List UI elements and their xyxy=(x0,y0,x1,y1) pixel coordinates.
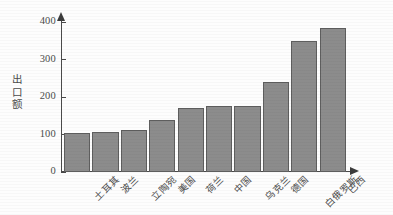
bar xyxy=(149,120,175,173)
y-axis-tick-label-300: 300 xyxy=(40,53,56,64)
bar xyxy=(320,28,346,172)
x-axis-labels: 土耳其波兰立陶宛美国荷兰中国乌克兰德国白俄罗斯巴西 xyxy=(62,172,362,215)
bar xyxy=(178,108,204,172)
y-axis-title-char-1: 出 xyxy=(10,74,23,87)
x-axis-label: 美国 xyxy=(175,174,196,195)
y-axis-tick-label-100: 100 xyxy=(40,128,56,139)
x-axis-label: 荷兰 xyxy=(204,174,225,195)
y-axis-tick-label-0: 0 xyxy=(51,165,56,176)
y-axis-tick-label-200: 200 xyxy=(40,90,56,101)
bar xyxy=(206,106,232,172)
x-axis-label: 德国 xyxy=(289,174,310,195)
bar xyxy=(291,41,317,172)
bar xyxy=(64,133,90,172)
bar xyxy=(263,82,289,172)
bar-series xyxy=(62,18,352,172)
x-axis-label: 立陶宛 xyxy=(150,174,178,202)
x-axis-label: 波兰 xyxy=(119,174,140,195)
bar xyxy=(234,106,260,172)
x-axis-label: 中国 xyxy=(232,174,253,195)
y-axis-title-char-3: 额 xyxy=(10,99,23,112)
y-axis-title-char-2: 口 xyxy=(10,87,23,100)
bar-chart: 出 口 额 0100200300400 土耳其波兰立陶宛美国荷兰中国乌克兰德国白… xyxy=(0,0,393,215)
y-axis-title: 出 口 额 xyxy=(10,74,23,112)
bar xyxy=(92,132,118,173)
x-axis-label: 土耳其 xyxy=(93,174,121,202)
x-axis-label: 乌克兰 xyxy=(264,174,292,202)
bar xyxy=(121,130,147,172)
y-axis-tick-label-400: 400 xyxy=(40,15,56,26)
